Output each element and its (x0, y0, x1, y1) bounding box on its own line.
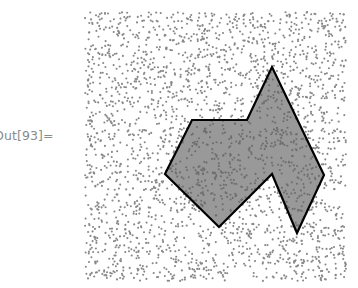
point-polygon-graphic[interactable] (0, 0, 358, 288)
